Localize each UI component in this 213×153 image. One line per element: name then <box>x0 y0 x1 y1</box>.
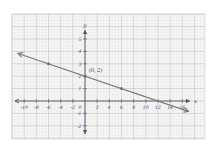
data-point <box>120 87 123 90</box>
x-tick-label: -10 <box>20 105 27 110</box>
x-tick-label: 8 <box>132 105 135 110</box>
y-tick-label: 3 <box>79 62 82 67</box>
x-tick-label: -8 <box>34 105 39 110</box>
y-tick-label: -1 <box>77 111 82 116</box>
y-tick-label: 4 <box>78 49 82 54</box>
grid <box>12 14 205 139</box>
y-tick-label: -2 <box>77 124 82 129</box>
x-tick-label: 2 <box>95 105 99 110</box>
origin-label: 0 <box>79 105 82 110</box>
x-tick-label: -4 <box>58 105 63 110</box>
annotations: (0, 2) <box>89 67 102 73</box>
x-tick-label: -6 <box>46 105 51 110</box>
x-axis-label: x <box>194 98 197 104</box>
y-tick-label: 1 <box>79 86 82 91</box>
coordinate-plane: xy -10-8-6-4-224681012141654321-1-20 (0,… <box>0 0 213 153</box>
x-tick-label: 6 <box>120 105 123 110</box>
y-axis-label: y <box>83 22 87 29</box>
x-tick-label: 4 <box>107 105 111 110</box>
data-point <box>84 75 87 78</box>
x-tick-label: 12 <box>155 105 161 110</box>
data-point <box>47 62 50 65</box>
point-annotation: (0, 2) <box>89 67 102 73</box>
x-tick-label: -2 <box>71 105 76 110</box>
y-tick-label: 5 <box>79 37 82 42</box>
x-tick-label: 10 <box>143 105 149 110</box>
